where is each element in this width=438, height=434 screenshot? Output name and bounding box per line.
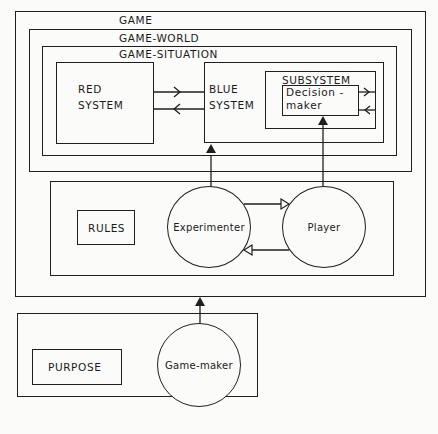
arrowhead-decision-maker [318,116,328,125]
arrowhead-game [195,297,205,306]
player-label: Player [308,222,341,233]
game-maker-label: Game-maker [165,360,233,371]
arrowhead-blue-system [206,144,216,153]
experimenter-node: Experimenter [167,186,251,268]
player-node: Player [282,186,366,268]
experimenter-label: Experimenter [173,222,245,233]
game-maker-node: Game-maker [157,323,241,407]
